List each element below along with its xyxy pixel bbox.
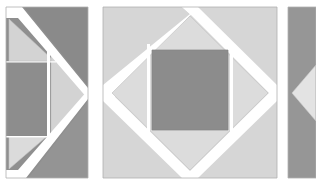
left-mid-rectangle (9, 62, 46, 136)
center-square (152, 50, 228, 130)
upper-band-gap (6, 61, 56, 62)
panel-right (288, 7, 316, 178)
geometric-composition (0, 0, 316, 185)
center-square-right-gap (230, 44, 233, 136)
center-square-left-gap (147, 44, 150, 136)
figure-canvas (0, 0, 316, 185)
panel-middle (103, 7, 277, 178)
panel-left (6, 7, 88, 178)
lower-band-gap (6, 136, 50, 137)
